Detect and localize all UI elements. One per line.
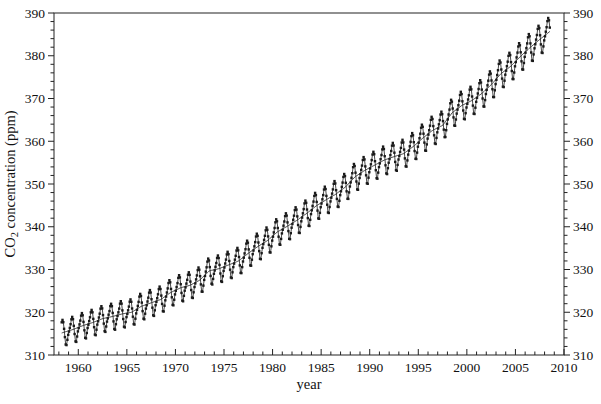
x-axis-tick-labels: 1960196519701975198019851990199520002005… bbox=[65, 360, 578, 375]
chart-canvas: 3103103203203303303403403503503603603703… bbox=[0, 0, 601, 404]
y-tick-label-right: 320 bbox=[573, 305, 594, 320]
y-axis-label: CO2 concentration (ppm) bbox=[2, 110, 20, 257]
x-tick-label: 1970 bbox=[162, 360, 189, 375]
y-axis-ticks bbox=[48, 13, 570, 355]
y-tick-label-left: 340 bbox=[25, 219, 46, 234]
x-tick-label: 1995 bbox=[405, 360, 432, 375]
x-tick-label: 1960 bbox=[65, 360, 92, 375]
x-axis-label: year bbox=[297, 376, 322, 392]
x-tick-label: 1965 bbox=[113, 360, 140, 375]
x-tick-label: 2005 bbox=[502, 360, 529, 375]
x-tick-label: 1980 bbox=[259, 360, 286, 375]
y-tick-label-left: 370 bbox=[25, 91, 46, 106]
y-tick-label-right: 360 bbox=[573, 134, 594, 149]
y-tick-label-right: 340 bbox=[573, 219, 594, 234]
y-tick-label-left: 360 bbox=[25, 134, 46, 149]
y-tick-label-left: 330 bbox=[25, 262, 46, 277]
y-tick-label-left: 390 bbox=[25, 6, 46, 21]
plot-frame bbox=[54, 13, 564, 355]
co2-monthly-line bbox=[62, 18, 550, 345]
y-tick-label-right: 350 bbox=[573, 177, 594, 192]
y-tick-label-left: 320 bbox=[25, 305, 46, 320]
x-axis-ticks bbox=[59, 349, 564, 355]
x-tick-label: 1975 bbox=[211, 360, 238, 375]
co2-monthly-markers bbox=[61, 17, 552, 347]
y-tick-label-right: 370 bbox=[573, 91, 594, 106]
x-tick-label: 2010 bbox=[551, 360, 578, 375]
y-tick-label-right: 330 bbox=[573, 262, 594, 277]
x-tick-label: 1990 bbox=[356, 360, 383, 375]
y-tick-label-left: 380 bbox=[25, 48, 46, 63]
co2-keeling-curve-chart: 3103103203203303303403403503503603603703… bbox=[0, 0, 601, 404]
y-tick-label-left: 310 bbox=[25, 348, 46, 363]
y-tick-label-right: 390 bbox=[573, 6, 594, 21]
co2-trend-line bbox=[62, 32, 550, 334]
y-tick-label-left: 350 bbox=[25, 177, 46, 192]
x-tick-label: 1985 bbox=[308, 360, 335, 375]
y-tick-label-right: 380 bbox=[573, 48, 594, 63]
x-tick-label: 2000 bbox=[453, 360, 480, 375]
